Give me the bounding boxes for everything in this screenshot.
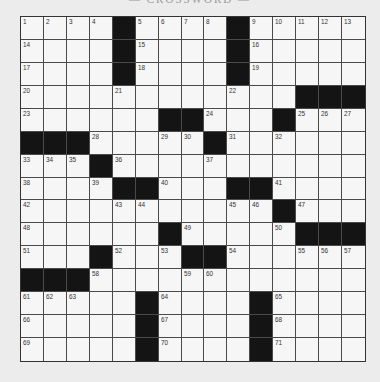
crossword-cell[interactable] xyxy=(319,200,342,223)
crossword-cell[interactable] xyxy=(273,40,296,63)
crossword-cell[interactable]: 71 xyxy=(273,338,296,361)
crossword-cell[interactable]: 52 xyxy=(113,246,136,269)
crossword-cell[interactable] xyxy=(342,200,365,223)
crossword-cell[interactable]: 69 xyxy=(21,338,44,361)
crossword-cell[interactable] xyxy=(67,40,90,63)
crossword-cell[interactable] xyxy=(342,155,365,178)
crossword-cell[interactable]: 20 xyxy=(21,86,44,109)
crossword-cell[interactable] xyxy=(136,109,159,132)
crossword-cell[interactable] xyxy=(342,269,365,292)
crossword-cell[interactable]: 3 xyxy=(67,17,90,40)
crossword-cell[interactable] xyxy=(44,338,67,361)
crossword-cell[interactable]: 33 xyxy=(21,155,44,178)
crossword-cell[interactable]: 25 xyxy=(296,109,319,132)
crossword-cell[interactable] xyxy=(67,200,90,223)
crossword-cell[interactable] xyxy=(204,178,227,201)
crossword-cell[interactable]: 50 xyxy=(273,223,296,246)
crossword-cell[interactable]: 63 xyxy=(67,292,90,315)
crossword-cell[interactable]: 55 xyxy=(296,246,319,269)
crossword-cell[interactable] xyxy=(44,63,67,86)
crossword-cell[interactable] xyxy=(182,63,205,86)
crossword-cell[interactable] xyxy=(204,223,227,246)
crossword-cell[interactable] xyxy=(90,200,113,223)
crossword-cell[interactable] xyxy=(296,155,319,178)
crossword-cell[interactable]: 60 xyxy=(204,269,227,292)
crossword-cell[interactable] xyxy=(296,269,319,292)
crossword-cell[interactable]: 15 xyxy=(136,40,159,63)
crossword-cell[interactable] xyxy=(319,155,342,178)
crossword-cell[interactable] xyxy=(44,178,67,201)
crossword-cell[interactable] xyxy=(113,292,136,315)
crossword-cell[interactable]: 61 xyxy=(21,292,44,315)
crossword-cell[interactable]: 41 xyxy=(273,178,296,201)
crossword-cell[interactable] xyxy=(204,292,227,315)
crossword-cell[interactable]: 68 xyxy=(273,315,296,338)
crossword-cell[interactable] xyxy=(182,155,205,178)
crossword-cell[interactable] xyxy=(296,292,319,315)
crossword-cell[interactable]: 65 xyxy=(273,292,296,315)
crossword-cell[interactable] xyxy=(90,223,113,246)
crossword-cell[interactable]: 56 xyxy=(319,246,342,269)
crossword-cell[interactable] xyxy=(182,292,205,315)
crossword-cell[interactable] xyxy=(227,315,250,338)
crossword-cell[interactable]: 51 xyxy=(21,246,44,269)
crossword-cell[interactable]: 7 xyxy=(182,17,205,40)
crossword-cell[interactable] xyxy=(319,269,342,292)
crossword-cell[interactable] xyxy=(273,269,296,292)
crossword-cell[interactable] xyxy=(44,315,67,338)
crossword-cell[interactable] xyxy=(44,40,67,63)
crossword-cell[interactable] xyxy=(342,178,365,201)
crossword-cell[interactable] xyxy=(159,86,182,109)
crossword-cell[interactable] xyxy=(90,292,113,315)
crossword-cell[interactable]: 2 xyxy=(44,17,67,40)
crossword-cell[interactable] xyxy=(227,155,250,178)
crossword-cell[interactable]: 8 xyxy=(204,17,227,40)
crossword-cell[interactable] xyxy=(159,200,182,223)
crossword-cell[interactable] xyxy=(182,40,205,63)
crossword-cell[interactable]: 45 xyxy=(227,200,250,223)
crossword-cell[interactable] xyxy=(67,246,90,269)
crossword-cell[interactable]: 36 xyxy=(113,155,136,178)
crossword-cell[interactable] xyxy=(67,223,90,246)
crossword-cell[interactable] xyxy=(182,86,205,109)
crossword-cell[interactable] xyxy=(342,63,365,86)
crossword-cell[interactable] xyxy=(273,86,296,109)
crossword-cell[interactable] xyxy=(44,86,67,109)
crossword-cell[interactable]: 49 xyxy=(182,223,205,246)
crossword-cell[interactable] xyxy=(319,40,342,63)
crossword-cell[interactable]: 48 xyxy=(21,223,44,246)
crossword-cell[interactable] xyxy=(319,178,342,201)
crossword-cell[interactable] xyxy=(182,178,205,201)
crossword-cell[interactable] xyxy=(136,246,159,269)
crossword-cell[interactable] xyxy=(67,86,90,109)
crossword-cell[interactable] xyxy=(250,246,273,269)
crossword-cell[interactable] xyxy=(319,63,342,86)
crossword-cell[interactable] xyxy=(250,132,273,155)
crossword-cell[interactable] xyxy=(204,63,227,86)
crossword-cell[interactable] xyxy=(342,132,365,155)
crossword-cell[interactable]: 46 xyxy=(250,200,273,223)
crossword-cell[interactable]: 1 xyxy=(21,17,44,40)
crossword-cell[interactable]: 6 xyxy=(159,17,182,40)
crossword-cell[interactable] xyxy=(90,63,113,86)
crossword-cell[interactable] xyxy=(67,63,90,86)
crossword-cell[interactable]: 62 xyxy=(44,292,67,315)
crossword-cell[interactable] xyxy=(90,86,113,109)
crossword-cell[interactable] xyxy=(204,338,227,361)
crossword-cell[interactable]: 27 xyxy=(342,109,365,132)
crossword-cell[interactable] xyxy=(296,40,319,63)
crossword-cell[interactable] xyxy=(227,338,250,361)
crossword-cell[interactable]: 28 xyxy=(90,132,113,155)
crossword-cell[interactable] xyxy=(204,315,227,338)
crossword-cell[interactable] xyxy=(67,178,90,201)
crossword-cell[interactable] xyxy=(319,315,342,338)
crossword-cell[interactable]: 35 xyxy=(67,155,90,178)
crossword-cell[interactable] xyxy=(204,86,227,109)
crossword-cell[interactable] xyxy=(90,40,113,63)
crossword-cell[interactable] xyxy=(136,269,159,292)
crossword-cell[interactable] xyxy=(296,338,319,361)
crossword-cell[interactable]: 26 xyxy=(319,109,342,132)
crossword-cell[interactable]: 53 xyxy=(159,246,182,269)
crossword-cell[interactable]: 64 xyxy=(159,292,182,315)
crossword-cell[interactable] xyxy=(67,338,90,361)
